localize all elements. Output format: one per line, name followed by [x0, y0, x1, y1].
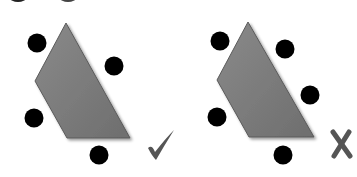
quadrilateral-shape: [217, 22, 314, 137]
figure-incorrect: [208, 22, 351, 165]
vertex-dot: [25, 109, 44, 128]
vertex-dot: [274, 146, 293, 165]
cropped-dot: [10, 0, 26, 2]
vertex-dot: [90, 146, 109, 165]
diagram-canvas: [0, 0, 357, 177]
vertex-dot: [208, 108, 227, 127]
vertex-dot: [105, 57, 124, 76]
vertex-dot: [28, 34, 47, 53]
cropped-dot: [60, 0, 76, 2]
quadrilateral-shape: [35, 23, 130, 138]
vertex-dot: [301, 86, 320, 105]
figure-correct: [25, 23, 175, 165]
vertex-dot: [276, 40, 295, 59]
vertex-dot: [211, 32, 230, 51]
check-icon: [148, 130, 174, 160]
x-icon: [333, 132, 350, 156]
